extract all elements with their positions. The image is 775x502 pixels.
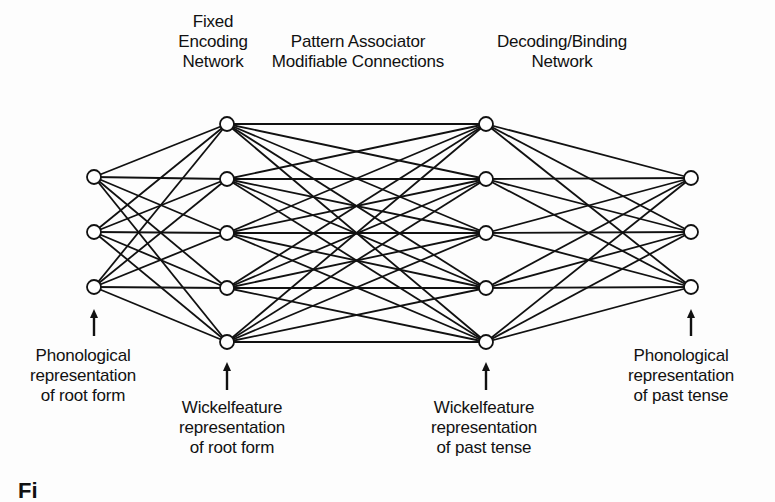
node-wickelfeature-root: [220, 335, 234, 349]
figure-caption-partial: Fi: [18, 480, 38, 502]
connection-line: [486, 178, 691, 179]
up-arrow-icon: [482, 362, 490, 390]
connection-line: [94, 287, 227, 288]
up-arrow-icon: [90, 309, 98, 336]
connection-line: [486, 178, 691, 342]
node-wickelfeature-past: [479, 281, 493, 295]
node-phonological-root: [87, 170, 101, 184]
node-wickelfeature-root: [220, 172, 234, 186]
node-wickelfeature-past: [479, 117, 493, 131]
node-wickelfeature-past: [479, 226, 493, 240]
node-wickelfeature-root: [220, 226, 234, 240]
connection-line: [486, 124, 691, 178]
label-pattern-associator: Pattern AssociatorModifiable Connections: [272, 32, 444, 72]
label-phonological-past-tense: Phonologicalrepresentationof past tense: [628, 346, 734, 406]
up-arrow-icon: [223, 362, 231, 390]
label-fixed-encoding-network: FixedEncodingNetwork: [178, 12, 247, 72]
connection-line: [94, 287, 227, 342]
node-wickelfeature-past: [479, 172, 493, 186]
node-phonological-past: [684, 171, 698, 185]
label-wickelfeature-past-tense: Wickelfeaturerepresentationof past tense: [431, 398, 537, 458]
up-arrow-icon: [687, 309, 695, 336]
label-decoding-binding-network: Decoding/BindingNetwork: [497, 32, 627, 72]
label-wickelfeature-root-form: Wickelfeaturerepresentationof root form: [179, 398, 285, 458]
node-phonological-past: [684, 280, 698, 294]
node-wickelfeature-root: [220, 281, 234, 295]
node-phonological-root: [87, 280, 101, 294]
connection-line: [94, 124, 227, 287]
connection-line: [486, 287, 691, 342]
label-phonological-root-form: Phonologicalrepresentationof root form: [30, 346, 136, 406]
node-phonological-past: [684, 225, 698, 239]
connection-line: [94, 124, 227, 177]
node-phonological-root: [87, 225, 101, 239]
node-wickelfeature-root: [220, 117, 234, 131]
node-wickelfeature-past: [479, 335, 493, 349]
